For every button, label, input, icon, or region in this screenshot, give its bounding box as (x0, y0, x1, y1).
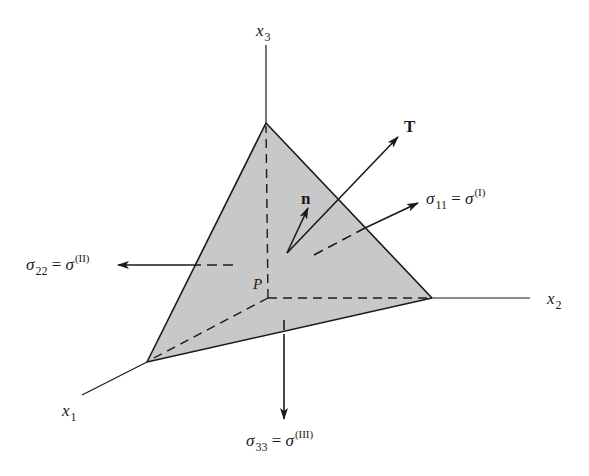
sigma33-label: σ33 = σ(III) (246, 432, 313, 449)
x1-axis (82, 362, 147, 395)
sigma22-label: σ22 = σ(II) (26, 256, 90, 273)
point-p-label: P (253, 277, 262, 292)
x1-axis-label: x1 (62, 402, 77, 419)
traction-vector-label: T (404, 118, 415, 135)
stress-tetrahedron-diagram (0, 0, 589, 476)
normal-vector-label: n (301, 190, 310, 207)
oblique-face (147, 123, 432, 362)
sigma11-label: σ11 = σ(I) (426, 190, 485, 207)
x2-axis-label: x2 (547, 290, 562, 307)
x3-axis-label: x3 (256, 22, 271, 39)
sigma11-arrow (365, 203, 418, 228)
